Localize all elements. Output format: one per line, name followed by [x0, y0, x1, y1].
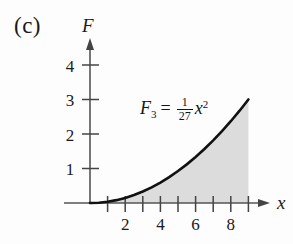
fraction-denominator: 27 — [177, 110, 193, 123]
equation-equals-sign: = — [161, 98, 171, 118]
y-tick-label-3: 3 — [66, 91, 75, 110]
figure-panel-c: (c) — [0, 0, 293, 244]
y-tick-label-1: 1 — [66, 160, 75, 179]
y-tick-label-2: 2 — [66, 126, 75, 145]
equation-exponent: 2 — [203, 98, 209, 110]
y-axis-arrowhead — [86, 38, 94, 50]
equation-annotation: F3=127x2 — [140, 97, 208, 123]
y-tick-label-4: 4 — [66, 57, 75, 76]
equation-lhs-subscript: 3 — [151, 108, 157, 120]
x-tick-label-4: 4 — [156, 215, 165, 234]
y-axis-label: F — [81, 15, 94, 36]
equation-fraction: 127 — [177, 96, 193, 122]
x-axis-arrowhead — [258, 199, 270, 207]
equation-lhs-symbol: F — [140, 98, 151, 118]
x-tick-label-6: 6 — [191, 215, 200, 234]
x-tick-label-8: 8 — [227, 215, 236, 234]
equation-variable: x — [195, 98, 203, 118]
fraction-numerator: 1 — [177, 96, 193, 109]
x-axis-label: x — [276, 192, 286, 213]
x-tick-label-2: 2 — [121, 215, 130, 234]
